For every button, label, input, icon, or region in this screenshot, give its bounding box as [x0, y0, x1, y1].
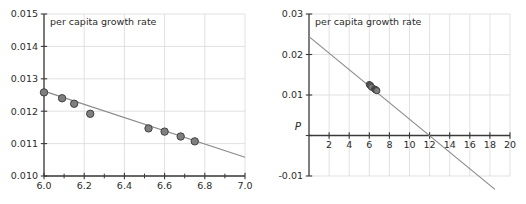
x-tick-label: 6.4 — [117, 180, 132, 191]
y-tick-label: 0.02 — [282, 49, 303, 60]
y-tick-label: 0.012 — [11, 106, 38, 117]
y-tick-label: 0.03 — [282, 8, 303, 19]
x-tick-label: 20 — [504, 139, 516, 150]
data-point — [87, 110, 94, 117]
y-tick-label: 0.01 — [282, 89, 303, 100]
y-tick-label: 0.013 — [11, 73, 38, 84]
x-tick-label: 6.2 — [77, 180, 92, 191]
chart-title: per capita growth rate — [315, 16, 422, 27]
x-tick-label: 8 — [386, 139, 392, 150]
y-tick-label: -0.01 — [278, 170, 303, 181]
data-point — [177, 133, 184, 140]
y-tick-label: 0.015 — [11, 8, 38, 19]
y-tick-label: 0.014 — [11, 41, 38, 52]
chart-panel-right: 2468101214161820-0.010.010.020.03Pper ca… — [263, 0, 526, 204]
x-tick-label: 18 — [484, 139, 496, 150]
chart-left: 6.06.26.46.66.87.00.0100.0110.0120.0130.… — [0, 0, 263, 204]
data-point — [40, 89, 47, 96]
axes — [44, 14, 245, 176]
tick-labels: 6.06.26.46.66.87.00.0100.0110.0120.0130.… — [11, 8, 253, 190]
gridlines — [44, 14, 245, 176]
data-point — [145, 125, 152, 132]
x-tick-label: 6.6 — [157, 180, 172, 191]
x-tick-label: 6 — [366, 139, 372, 150]
chart-right: 2468101214161820-0.010.010.020.03Pper ca… — [263, 0, 526, 204]
figure-container: 6.06.26.46.66.87.00.0100.0110.0120.0130.… — [0, 0, 526, 204]
y-tick-label: 0.010 — [11, 170, 38, 181]
data-points — [366, 81, 380, 93]
ticks — [41, 14, 245, 179]
data-point — [161, 128, 168, 135]
chart-title: per capita growth rate — [50, 16, 157, 27]
data-point — [374, 88, 380, 94]
x-tick-label: 7.0 — [237, 180, 252, 191]
x-tick-label: 10 — [403, 139, 415, 150]
x-tick-label: 16 — [464, 139, 476, 150]
x-tick-label: 12 — [424, 139, 436, 150]
fit-line — [309, 37, 495, 190]
p-axis-label: P — [295, 120, 302, 132]
y-tick-label: 0.011 — [11, 138, 38, 149]
chart-panel-left: 6.06.26.46.66.87.00.0100.0110.0120.0130.… — [0, 0, 263, 204]
x-tick-label: 4 — [346, 139, 352, 150]
x-tick-label: 6.0 — [36, 180, 51, 191]
x-tick-label: 6.8 — [197, 180, 212, 191]
data-point — [191, 138, 198, 145]
x-tick-label: 2 — [326, 139, 332, 150]
data-points — [40, 89, 198, 145]
gridlines — [309, 14, 510, 176]
data-point — [70, 100, 77, 107]
data-point — [58, 95, 65, 102]
